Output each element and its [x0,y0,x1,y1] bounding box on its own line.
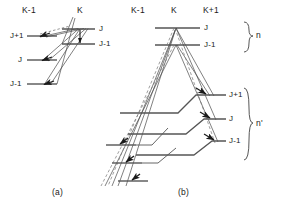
panel-a-incoming-arrows [40,33,54,85]
level-step-b-j-plus-1 [120,95,226,113]
level-label-a-left-j-minus-1: J-1 [10,80,22,88]
transition-line-b-right-3 [176,45,218,142]
transition-line-b-right-1 [176,28,214,96]
level-label-a-left-j: J [18,56,22,64]
column-header-a-k: K [77,6,83,15]
brace-label-n-prime: n' [256,119,263,128]
panel-a-transitions [40,17,88,85]
level-riser-b-1 [136,128,168,145]
brace-label-n: n [256,31,261,40]
panel-a-group [27,17,95,85]
transition-line-b-right-4 [177,45,210,96]
level-label-a-right-j: J [99,25,103,33]
arrow-b-into-lower-left-2 [126,156,134,162]
arrow-b-into-j-minus-1 [204,134,214,140]
panel-caption-b: (b) [178,188,189,197]
level-step-b-j-minus-1 [136,141,226,155]
brace-upper-shape [244,22,253,52]
panel-b-group [101,22,253,186]
transition-line-b-left-dashed-2 [101,45,174,186]
energy-level-diagram [0,0,285,206]
level-label-b-upper-j: J [204,24,208,32]
panel-b-lower-levels [106,95,226,181]
column-header-b-k: K [171,6,177,15]
panel-caption-a: (a) [52,188,63,197]
level-label-b-upper-j-minus-1: J-1 [204,41,216,49]
level-label-b-lower-j-minus-1: J-1 [229,137,241,145]
arrow-b-into-lower-left-3 [132,174,140,180]
level-label-b-lower-j-plus-1: J+1 [229,91,243,99]
figure-canvas: K-1 K K-1 K K+1 J+1 J J-1 J J-1 J J-1 J+… [0,0,285,206]
level-label-b-lower-j: J [229,115,233,123]
level-label-a-left-j-plus-1: J+1 [10,32,24,40]
column-header-a-k-minus-1: K-1 [22,6,36,15]
column-header-b-k-plus-1: K+1 [203,6,219,15]
transition-line-a-3 [44,29,80,86]
brace-lower-shape [244,88,253,160]
transition-line-b-left-4 [105,45,176,186]
arrow-b-into-j [200,112,210,118]
level-label-a-right-j-minus-1: J-1 [99,40,111,48]
column-header-b-k-minus-1: K-1 [131,6,145,15]
